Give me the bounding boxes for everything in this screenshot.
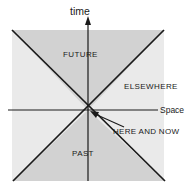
future-cone-label: FUTURE — [63, 51, 98, 59]
past-cone-label: PAST — [72, 150, 94, 158]
time-axis-label: time — [70, 6, 90, 17]
light-cone-graphic — [0, 0, 186, 190]
space-axis-label: Space — [160, 106, 184, 115]
elsewhere-region-label: ELSEWHERE — [124, 83, 178, 91]
spacetime-light-cone-diagram: time FUTURE ELSEWHERE Space HERE AND NOW… — [0, 0, 186, 190]
origin-event-label: HERE AND NOW — [113, 128, 179, 136]
arrow-up-icon — [85, 16, 91, 25]
